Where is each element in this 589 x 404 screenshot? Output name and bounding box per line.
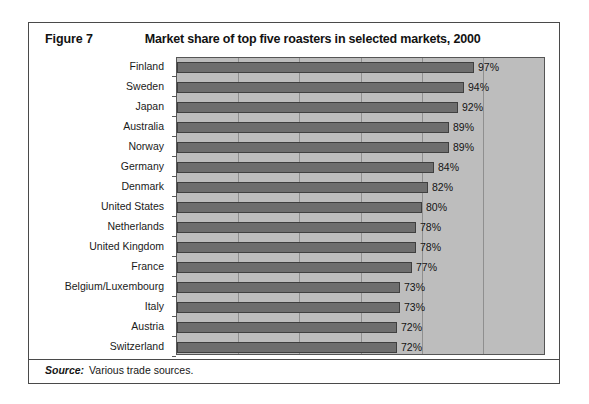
- category-label: Switzerland: [110, 336, 164, 356]
- bar-value-label: 84%: [434, 160, 459, 175]
- bar: [177, 182, 428, 193]
- axis-tick: [172, 356, 176, 357]
- bar-value-label: 89%: [449, 140, 474, 155]
- category-label: Belgium/Luxembourg: [65, 276, 164, 296]
- bar: [177, 82, 464, 93]
- plot-area: 97%94%92%89%89%84%82%80%78%78%77%73%73%7…: [176, 57, 545, 355]
- bar: [177, 62, 474, 73]
- bar-row: 92%: [177, 98, 544, 118]
- category-label: Finland: [130, 56, 164, 76]
- bar-value-label: 77%: [412, 260, 437, 275]
- bar-value-label: 72%: [397, 340, 422, 355]
- figure-number: Figure 7: [45, 32, 93, 46]
- bar-chart: FinlandSwedenJapanAustraliaNorwayGermany…: [45, 56, 545, 356]
- bar-value-label: 72%: [397, 320, 422, 335]
- gridline: [544, 58, 545, 354]
- category-label: Australia: [123, 116, 164, 136]
- bar-row: 94%: [177, 78, 544, 98]
- bar: [177, 222, 416, 233]
- bar-row: 72%: [177, 318, 544, 338]
- bar-value-label: 78%: [416, 240, 441, 255]
- category-label: Sweden: [126, 76, 164, 96]
- category-label: France: [131, 256, 164, 276]
- category-label: Italy: [145, 296, 164, 316]
- bar-row: 97%: [177, 58, 544, 78]
- bar-row: 78%: [177, 218, 544, 238]
- bar-row: 73%: [177, 278, 544, 298]
- category-axis: FinlandSwedenJapanAustraliaNorwayGermany…: [45, 56, 170, 356]
- bar: [177, 282, 400, 293]
- bar-value-label: 94%: [464, 80, 489, 95]
- bar-value-label: 97%: [474, 60, 499, 75]
- bar: [177, 322, 397, 333]
- category-label: Denmark: [121, 176, 164, 196]
- bar: [177, 262, 412, 273]
- bar-value-label: 78%: [416, 220, 441, 235]
- bar-value-label: 89%: [449, 120, 474, 135]
- category-label: United Kingdom: [89, 236, 164, 256]
- bar: [177, 142, 449, 153]
- figure-header: Figure 7 Market share of top five roaste…: [29, 23, 559, 55]
- source-divider: [29, 359, 559, 360]
- bar-value-label: 73%: [400, 300, 425, 315]
- bar: [177, 162, 434, 173]
- bar-value-label: 80%: [422, 200, 447, 215]
- bar: [177, 102, 458, 113]
- bar-row: 84%: [177, 158, 544, 178]
- figure-title: Market share of top five roasters in sel…: [145, 32, 481, 46]
- bar: [177, 302, 400, 313]
- bar: [177, 242, 416, 253]
- category-label: Germany: [121, 156, 164, 176]
- bar-row: 89%: [177, 138, 544, 158]
- figure-frame: Figure 7 Market share of top five roaste…: [28, 22, 560, 384]
- category-label: United States: [101, 196, 164, 216]
- bar-row: 73%: [177, 298, 544, 318]
- bar-value-label: 73%: [400, 280, 425, 295]
- bar: [177, 122, 449, 133]
- category-label: Japan: [135, 96, 164, 116]
- source-label: Source:: [45, 364, 84, 376]
- bar-row: 80%: [177, 198, 544, 218]
- source-text: Various trade sources.: [89, 364, 193, 376]
- source-line: Source:Various trade sources.: [45, 364, 193, 376]
- bar: [177, 202, 422, 213]
- category-label: Austria: [131, 316, 164, 336]
- category-label: Netherlands: [107, 216, 164, 236]
- bars-layer: 97%94%92%89%89%84%82%80%78%78%77%73%73%7…: [177, 58, 544, 354]
- category-label: Norway: [128, 136, 164, 156]
- bar-row: 78%: [177, 238, 544, 258]
- bar-value-label: 82%: [428, 180, 453, 195]
- bar-row: 82%: [177, 178, 544, 198]
- bar-value-label: 92%: [458, 100, 483, 115]
- bar: [177, 342, 397, 353]
- bar-row: 72%: [177, 338, 544, 355]
- bar-row: 77%: [177, 258, 544, 278]
- bar-row: 89%: [177, 118, 544, 138]
